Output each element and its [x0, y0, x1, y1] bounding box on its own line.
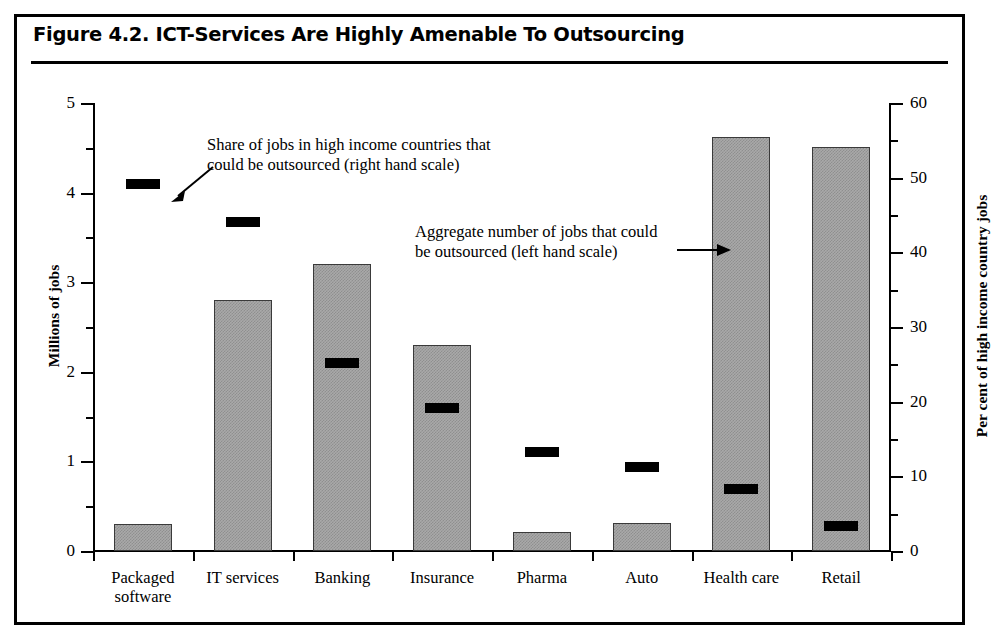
x-axis-category-label-line: Insurance	[392, 568, 492, 587]
x-axis-category-label-line: IT services	[193, 568, 293, 587]
y-axis-left-tick	[81, 103, 93, 105]
y-axis-left-tick-label: 1	[55, 452, 75, 469]
y-axis-left-tick-label: 2	[55, 363, 75, 380]
y-axis-right-minor-tick	[891, 290, 898, 292]
y-axis-left-tick	[81, 193, 93, 195]
y-axis-right-tick-label: 0	[910, 542, 936, 559]
y-axis-left-minor-tick	[86, 506, 93, 508]
y-axis-right-tick-label: 40	[910, 243, 936, 260]
x-axis-tick	[392, 552, 394, 561]
y-axis-right-minor-tick	[891, 439, 898, 441]
marker-auto	[625, 462, 659, 472]
marker-banking	[325, 358, 359, 368]
y-axis-left-tick	[81, 282, 93, 284]
x-axis-category-auto: Auto	[592, 568, 692, 587]
y-axis-left-minor-tick	[86, 327, 93, 329]
annotation-share-of-jobs: Share of jobs in high income countries t…	[207, 135, 627, 175]
x-axis-category-retail: Retail	[791, 568, 891, 587]
x-axis-tick	[93, 552, 95, 561]
y-axis-right-tick	[891, 327, 903, 329]
marker-insurance	[425, 403, 459, 413]
figure-frame: Figure 4.2. ICT-Services Are Highly Amen…	[14, 14, 965, 625]
marker-pharma	[525, 447, 559, 457]
x-axis-category-label-line: Health care	[692, 568, 792, 587]
x-axis-category-health-care: Health care	[692, 568, 792, 587]
arrow-right-icon	[677, 239, 733, 261]
x-axis-category-banking: Banking	[293, 568, 393, 587]
bar-retail	[812, 147, 870, 551]
bar-insurance	[413, 345, 471, 551]
y-axis-left-tick	[81, 551, 93, 553]
bar-pharma	[513, 532, 571, 551]
y-axis-right-tick-label: 10	[910, 467, 936, 484]
y-axis-left-tick-label: 0	[55, 542, 75, 559]
x-axis-tick	[592, 552, 594, 561]
x-axis-category-label-line: Pharma	[492, 568, 592, 587]
x-axis-category-label-line: Packaged	[93, 568, 193, 587]
y-axis-right-tick-label: 20	[910, 393, 936, 410]
x-axis-category-insurance: Insurance	[392, 568, 492, 587]
y-axis-right-tick	[891, 178, 903, 180]
x-axis-category-label-line: software	[93, 587, 193, 606]
y-axis-right-tick	[891, 103, 903, 105]
marker-it-services	[226, 217, 260, 227]
bar-packaged-software	[114, 524, 172, 551]
y-axis-right-tick-label: 50	[910, 169, 936, 186]
y-axis-right-tick	[891, 476, 903, 478]
x-axis-category-packaged-software: Packagedsoftware	[93, 568, 193, 606]
y-axis-left-tick-label: 3	[55, 273, 75, 290]
x-axis-tick	[193, 552, 195, 561]
marker-packaged-software	[126, 179, 160, 189]
bar-it-services	[214, 300, 272, 551]
annotation-share-line-2: could be outsourced (right hand scale)	[207, 155, 627, 175]
bar-auto	[613, 523, 671, 551]
x-axis-category-label-line: Retail	[791, 568, 891, 587]
y-axis-right-minor-tick	[891, 364, 898, 366]
y-axis-left-tick-label: 4	[55, 184, 75, 201]
y-axis-left-minor-tick	[86, 237, 93, 239]
y-axis-right-minor-tick	[891, 140, 898, 142]
x-axis-category-label-line: Auto	[592, 568, 692, 587]
y-axis-right-minor-tick	[891, 514, 898, 516]
x-axis-tick	[492, 552, 494, 561]
y-axis-right-minor-tick	[891, 215, 898, 217]
y-axis-right-tick-label: 60	[910, 94, 936, 111]
marker-health-care	[724, 484, 758, 494]
y-axis-right-tick	[891, 252, 903, 254]
arrow-down-left-icon	[167, 165, 215, 207]
x-axis-tick	[692, 552, 694, 561]
x-axis-category-label-line: Banking	[293, 568, 393, 587]
marker-retail	[824, 521, 858, 531]
annotation-share-line-1: Share of jobs in high income countries t…	[207, 135, 627, 155]
bar-banking	[313, 264, 371, 551]
y-axis-left-tick	[81, 372, 93, 374]
x-axis-tick	[891, 552, 893, 561]
y-axis-left-tick	[81, 461, 93, 463]
x-axis-tick	[293, 552, 295, 561]
y-axis-left-tick-label: 5	[55, 94, 75, 111]
y-axis-left-minor-tick	[86, 417, 93, 419]
y-axis-right-tick	[891, 402, 903, 404]
x-axis-category-it-services: IT services	[193, 568, 293, 587]
y-axis-right-tick-label: 30	[910, 318, 936, 335]
y-axis-left-title: Millions of jobs	[45, 216, 63, 416]
chart-canvas: Millions of jobs Per cent of high income…	[17, 17, 962, 622]
x-axis-tick	[791, 552, 793, 561]
y-axis-left-minor-tick	[86, 148, 93, 150]
y-axis-right-title: Per cent of high income country jobs	[973, 151, 991, 481]
x-axis-category-pharma: Pharma	[492, 568, 592, 587]
